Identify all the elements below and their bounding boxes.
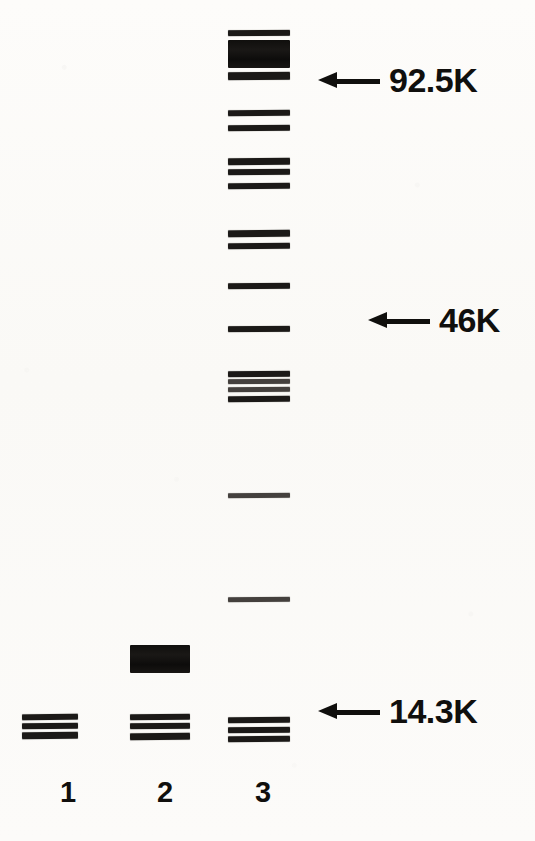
- left-arrow-icon: [318, 707, 380, 716]
- mw-marker-label: 46K: [439, 303, 500, 337]
- lane-number-label-3: 3: [243, 778, 283, 807]
- protein-band: [228, 243, 290, 250]
- protein-band: [228, 597, 290, 602]
- protein-band: [228, 396, 290, 403]
- gel-lane-1: [22, 0, 78, 841]
- gel-lane-3: [228, 0, 290, 841]
- protein-band: [228, 717, 290, 724]
- protein-band: [228, 125, 290, 131]
- protein-band: [228, 169, 290, 175]
- mw-marker-46k: 46K: [368, 303, 500, 337]
- protein-band: [22, 714, 78, 721]
- mw-marker-label: 14.3K: [389, 694, 477, 728]
- left-arrow-icon: [368, 316, 430, 325]
- protein-band: [228, 727, 290, 733]
- protein-band: [228, 72, 290, 80]
- protein-band: [228, 40, 290, 68]
- gel-lane-2: [130, 0, 190, 841]
- protein-band: [228, 326, 290, 332]
- protein-band: [130, 714, 190, 721]
- protein-band: [228, 493, 290, 498]
- protein-band: [228, 283, 290, 289]
- protein-band: [228, 736, 290, 743]
- protein-band: [130, 645, 190, 673]
- left-arrow-icon: [318, 76, 380, 85]
- protein-band: [228, 230, 290, 238]
- gel-electrophoresis-figure: 92.5K46K14.3K 123: [0, 0, 535, 841]
- mw-marker-92-5k: 92.5K: [318, 63, 477, 97]
- protein-band: [228, 387, 290, 392]
- protein-band: [228, 371, 290, 377]
- protein-band: [22, 723, 78, 729]
- protein-band: [130, 723, 190, 729]
- protein-band: [228, 183, 290, 190]
- protein-band: [228, 379, 290, 384]
- mw-marker-label: 92.5K: [389, 63, 477, 97]
- protein-band: [228, 30, 290, 36]
- protein-band: [130, 733, 190, 741]
- lane-number-label-2: 2: [145, 778, 185, 807]
- protein-band: [22, 732, 78, 740]
- lane-number-label-1: 1: [48, 778, 88, 807]
- protein-band: [228, 110, 290, 117]
- mw-marker-14-3k: 14.3K: [318, 694, 477, 728]
- protein-band: [228, 158, 290, 166]
